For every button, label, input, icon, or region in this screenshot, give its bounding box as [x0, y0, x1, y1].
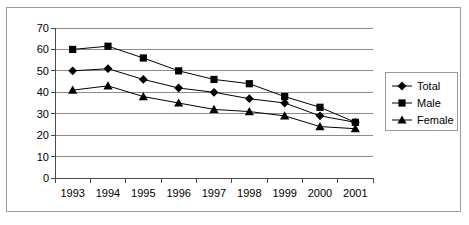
y-axis-tick-labels: 010203040506070: [37, 22, 49, 184]
data-point-marker: [104, 64, 113, 73]
gridlines: [55, 28, 373, 178]
y-tick-label: 60: [37, 43, 49, 55]
data-point-marker: [139, 75, 148, 84]
data-point-marker: [281, 93, 288, 100]
data-point-marker: [104, 43, 111, 50]
data-point-marker: [210, 76, 217, 83]
data-point-marker: [68, 66, 77, 75]
chart-legend: TotalMaleFemale: [385, 72, 457, 130]
y-tick-label: 70: [37, 22, 49, 34]
y-tick-label: 10: [37, 151, 49, 163]
chart-frame: 010203040506070 199319941995199619971998…: [6, 7, 461, 212]
y-tick-label: 40: [37, 86, 49, 98]
axes: [51, 28, 373, 178]
data-point-marker: [245, 94, 254, 103]
data-point-marker: [175, 67, 182, 74]
data-point-marker: [103, 81, 112, 89]
x-tick-label: 1999: [272, 187, 296, 199]
y-tick-label: 20: [37, 129, 49, 141]
x-tick-label: 1993: [60, 187, 84, 199]
x-tick-label: 2000: [308, 187, 332, 199]
data-series-layer: [68, 43, 360, 133]
data-point-marker: [69, 46, 76, 53]
x-tick-label: 2001: [343, 187, 367, 199]
data-point-marker: [140, 54, 147, 61]
series-total: [68, 64, 359, 126]
x-tick-label: 1996: [166, 187, 190, 199]
x-tick-label: 1995: [131, 187, 155, 199]
y-tick-label: 0: [43, 172, 49, 184]
legend-label-total: Total: [417, 80, 440, 92]
x-tick-label: 1998: [237, 187, 261, 199]
x-axis-ticks: [55, 178, 373, 183]
data-point-marker: [316, 111, 325, 120]
data-point-marker: [174, 84, 183, 93]
x-tick-label: 1997: [202, 187, 226, 199]
x-tick-label: 1994: [96, 187, 120, 199]
data-point-marker: [210, 88, 219, 97]
legend-label-male: Male: [417, 97, 441, 109]
data-point-marker: [316, 104, 323, 111]
legend-label-female: Female: [417, 114, 454, 126]
line-chart: 010203040506070 199319941995199619971998…: [7, 8, 460, 211]
legend-marker-male: [398, 99, 405, 106]
data-point-marker: [246, 80, 253, 87]
y-tick-label: 50: [37, 65, 49, 77]
x-axis-tick-labels: 199319941995199619971998199920002001: [60, 187, 367, 199]
y-tick-label: 30: [37, 108, 49, 120]
